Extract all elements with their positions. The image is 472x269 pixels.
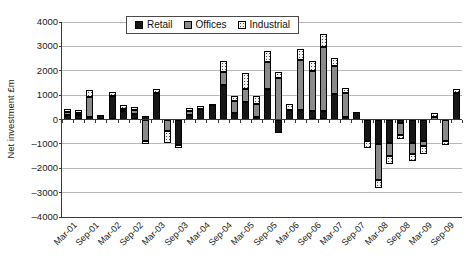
bar-Sep-05-retail xyxy=(264,89,271,119)
bar-Sep-05-offices xyxy=(264,62,271,89)
x-axis-tick xyxy=(84,120,85,123)
bar-Jun-06-industrial xyxy=(297,49,304,60)
y-axis-tick-label: 1000 xyxy=(18,90,58,100)
bar-Sep-03-retail xyxy=(175,120,182,146)
bar-Sep-06-industrial xyxy=(309,61,316,71)
x-axis-tick xyxy=(251,120,252,123)
bar-Mar-09-industrial xyxy=(420,146,427,154)
x-axis-tick xyxy=(351,120,352,123)
legend-item-industrial: Industrial xyxy=(238,19,291,30)
x-axis-tick xyxy=(73,120,74,123)
bar-Jun-05-industrial xyxy=(253,96,260,103)
bar-Sep-01-offices xyxy=(86,97,93,117)
bar-Sep-02-industrial xyxy=(131,107,138,110)
x-axis-tick xyxy=(429,120,430,123)
bar-Dec-08-industrial xyxy=(409,154,416,161)
x-axis-tick xyxy=(306,120,307,123)
bar-Jun-01-industrial xyxy=(75,110,82,113)
legend-item-offices: Offices xyxy=(184,19,227,30)
bar-Sep-04-retail xyxy=(220,85,227,119)
bar-Dec-04-industrial xyxy=(231,96,238,101)
bar-Dec-05-retail xyxy=(275,120,282,133)
x-axis-tick xyxy=(318,120,319,123)
industrial-swatch-icon xyxy=(238,21,246,29)
bar-Sep-08-industrial xyxy=(397,135,404,139)
gridline xyxy=(62,168,462,169)
bar-Sep-04-offices xyxy=(220,72,227,85)
bar-Dec-03-industrial xyxy=(186,108,193,112)
x-axis-tick xyxy=(240,120,241,123)
x-axis-tick xyxy=(106,120,107,123)
bar-Dec-09-retail xyxy=(453,93,460,120)
x-axis-tick xyxy=(206,120,207,123)
x-axis-tick xyxy=(118,120,119,123)
y-axis-tick-label: –2000 xyxy=(18,163,58,173)
x-axis-tick xyxy=(129,120,130,123)
bar-Mar-01-industrial xyxy=(64,109,71,112)
x-axis-tick xyxy=(395,120,396,123)
x-axis-tick xyxy=(362,120,363,123)
legend-label: Industrial xyxy=(250,19,291,30)
bar-Jun-02-offices xyxy=(120,109,127,111)
bar-Mar-08-offices xyxy=(375,144,382,180)
bar-Mar-05-retail xyxy=(242,102,249,119)
y-axis-tick-label: –1000 xyxy=(18,139,58,149)
x-axis-tick xyxy=(162,120,163,123)
x-axis-tick xyxy=(451,120,452,123)
bar-Jun-07-industrial xyxy=(342,88,349,93)
bar-Dec-03-offices xyxy=(186,111,193,114)
bar-Dec-04-offices xyxy=(231,101,238,113)
legend-item-retail: Retail xyxy=(135,19,173,30)
y-axis-tick-label: 0 xyxy=(18,115,58,125)
bar-Mar-02-retail xyxy=(109,96,116,120)
bar-Jun-04-retail xyxy=(209,105,216,120)
bar-Jun-07-offices xyxy=(342,93,349,117)
bar-Jun-06-offices xyxy=(297,60,304,110)
gridline xyxy=(62,95,462,96)
x-axis-tick xyxy=(462,120,463,123)
bar-Jun-05-offices xyxy=(253,104,260,117)
bar-Jun-03-industrial xyxy=(164,131,171,142)
bar-Dec-02-offices xyxy=(142,120,149,142)
x-axis-tick xyxy=(140,120,141,123)
legend-label: Retail xyxy=(147,19,173,30)
x-axis-tick xyxy=(195,120,196,123)
bar-Mar-03-retail xyxy=(153,93,160,120)
y-axis-title: Net investment £m xyxy=(5,79,16,158)
x-axis-tick xyxy=(273,120,274,123)
bar-Jun-02-industrial xyxy=(120,105,127,109)
y-axis-tick-label: –4000 xyxy=(18,212,58,222)
bar-Sep-03-industrial xyxy=(175,145,182,147)
bar-Mar-07-industrial xyxy=(331,58,338,67)
bar-Jun-08-retail xyxy=(386,120,393,143)
bar-Mar-07-offices xyxy=(331,66,338,94)
bar-Dec-08-retail xyxy=(409,120,416,143)
bar-Dec-09-industrial xyxy=(453,89,460,93)
net-investment-chart: Net investment £m 40003000200010000–1000… xyxy=(0,0,472,269)
bar-Sep-02-offices xyxy=(131,110,138,114)
bar-Mar-04-industrial xyxy=(197,106,204,108)
bar-Sep-05-industrial xyxy=(264,51,271,62)
x-axis-tick xyxy=(95,120,96,123)
x-axis-tick xyxy=(418,120,419,123)
bar-Sep-04-industrial xyxy=(220,61,227,72)
bar-Mar-05-offices xyxy=(242,89,249,102)
bar-Dec-05-industrial xyxy=(275,72,282,78)
x-axis-tick xyxy=(62,120,63,123)
x-axis-tick xyxy=(184,120,185,123)
bar-Sep-08-offices xyxy=(397,123,404,135)
bar-Mar-06-industrial xyxy=(286,104,293,110)
y-axis-tick-label: 3000 xyxy=(18,41,58,51)
gridline xyxy=(62,192,462,193)
retail-swatch-icon xyxy=(135,21,143,29)
x-axis-tick xyxy=(229,120,230,123)
x-axis-tick xyxy=(440,120,441,123)
offices-swatch-icon xyxy=(184,21,192,29)
x-axis-tick xyxy=(218,120,219,123)
bar-Dec-08-offices xyxy=(409,143,416,154)
x-axis-tick xyxy=(340,120,341,123)
bar-Dec-05-offices xyxy=(275,78,282,119)
bar-Sep-09-offices xyxy=(442,120,449,142)
x-axis-tick xyxy=(329,120,330,123)
legend: RetailOfficesIndustrial xyxy=(126,16,299,34)
